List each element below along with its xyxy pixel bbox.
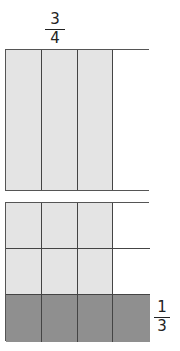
light-cell bbox=[78, 249, 113, 295]
light-cell bbox=[78, 203, 113, 249]
area-model-bottom bbox=[5, 202, 149, 341]
light-cell bbox=[42, 249, 78, 295]
light-cell bbox=[6, 249, 42, 295]
dark-cell bbox=[78, 295, 113, 342]
denominator: 3 bbox=[157, 319, 167, 334]
unshaded-column bbox=[113, 50, 150, 190]
dark-cell bbox=[42, 295, 78, 342]
light-cell bbox=[42, 203, 78, 249]
dark-cell bbox=[113, 295, 150, 342]
numerator: 1 bbox=[157, 300, 167, 315]
empty-cell bbox=[113, 203, 150, 249]
denominator: 4 bbox=[50, 31, 60, 46]
empty-cell bbox=[113, 249, 150, 295]
numerator: 3 bbox=[50, 12, 60, 27]
shaded-column bbox=[42, 50, 78, 190]
fraction-label-three-fourths: 3 4 bbox=[45, 12, 65, 46]
fraction-label-one-third: 1 3 bbox=[154, 300, 170, 334]
area-model-top bbox=[5, 49, 149, 191]
dark-cell bbox=[6, 295, 42, 342]
light-cell bbox=[6, 203, 42, 249]
shaded-column bbox=[78, 50, 113, 190]
shaded-column bbox=[6, 50, 42, 190]
